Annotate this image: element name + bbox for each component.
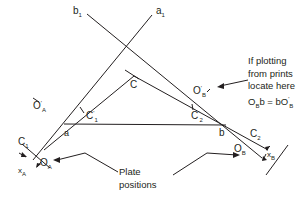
label-b: b	[219, 128, 225, 138]
arrowhead-plate-a	[53, 157, 60, 163]
label-ob-prime: O'B	[193, 86, 206, 96]
label-ob: OB	[234, 144, 246, 154]
label-c1: C1	[18, 137, 29, 147]
diagram-canvas: b1 a1 C a b O'A C'1 O'B C'2 C1 C2 OA OB …	[0, 0, 308, 201]
label-a1: a1	[156, 6, 165, 16]
tick-ob-prime	[207, 89, 210, 92]
ray-b1	[87, 14, 262, 158]
label-oa: OA	[40, 158, 52, 168]
label-a: a	[64, 128, 69, 138]
tick-c1-prime	[80, 107, 84, 113]
label-b1: b1	[73, 6, 82, 16]
label-c2: C2	[250, 129, 261, 139]
label-oa-prime: O'A	[33, 101, 46, 111]
note-line-2: from prints	[248, 68, 308, 81]
label-xb: xB	[267, 150, 275, 160]
label-c: C	[130, 80, 137, 90]
plate-positions-label: Plate positions	[119, 166, 157, 191]
label-c1-prime: C'1	[86, 111, 98, 121]
plate-pointer-a	[57, 153, 118, 172]
note-line-3: locate here	[248, 80, 308, 93]
baseline-ab	[64, 124, 226, 125]
plotting-note: If plotting from prints locate here OBb …	[248, 55, 308, 112]
label-c2-prime: C'2	[191, 111, 203, 121]
note-formula: OBb = bO'B	[248, 93, 308, 113]
arrowhead-xa	[21, 152, 27, 157]
plate-pointer-b	[173, 153, 237, 175]
note-pointer	[220, 80, 248, 86]
arrowhead-note	[217, 83, 224, 89]
note-line-1: If plotting	[248, 55, 308, 68]
label-xa: xA	[18, 166, 26, 176]
